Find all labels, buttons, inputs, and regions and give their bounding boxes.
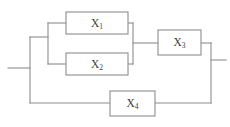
block-x2[interactable]: X2	[66, 53, 128, 75]
block-x1[interactable]: X1	[66, 12, 128, 34]
reliability-block-diagram: X1 X2 X3 X4	[0, 0, 230, 127]
diagram-canvas: X1 X2 X3 X4	[0, 0, 230, 127]
block-x4[interactable]: X4	[110, 91, 155, 116]
block-x3[interactable]: X3	[158, 30, 201, 55]
